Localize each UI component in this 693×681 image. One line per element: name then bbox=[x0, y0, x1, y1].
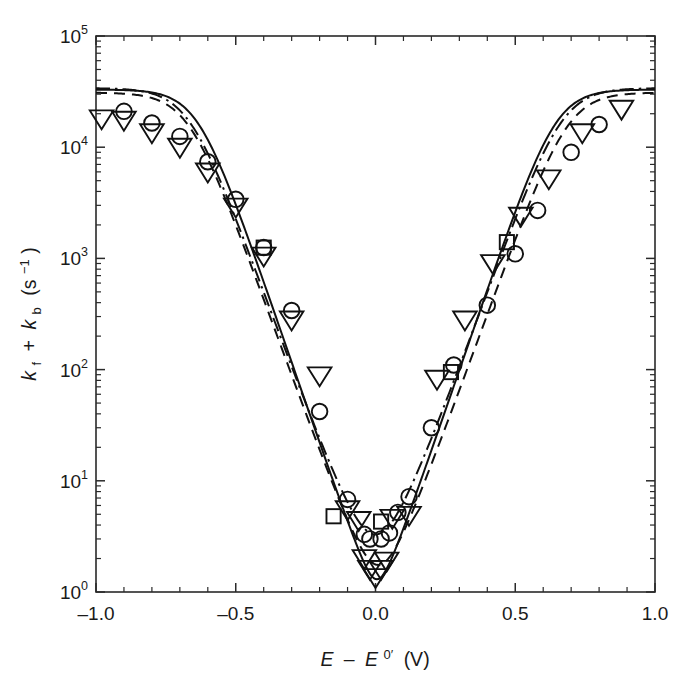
data-point-circle bbox=[284, 303, 300, 319]
data-point-triangle-down bbox=[537, 170, 561, 189]
ytitle-plus: + bbox=[18, 340, 40, 351]
fit-curves bbox=[96, 88, 655, 579]
xtitle-sup: 0′ bbox=[384, 647, 394, 662]
y-tick-label: 102 bbox=[60, 357, 88, 381]
svg-text:k f +: k f + k b (s −1 ) bbox=[11, 247, 45, 380]
ytitle-unit-close: ) bbox=[18, 247, 40, 254]
x-tick-label: –0.5 bbox=[217, 603, 254, 624]
dashed-fit bbox=[96, 93, 655, 565]
svg-text:E – E: E – E 0′ (V) bbox=[320, 641, 429, 670]
y-tick-label: 100 bbox=[60, 579, 88, 603]
data-point-circle bbox=[424, 420, 440, 436]
x-tick-label: 1.0 bbox=[642, 603, 668, 624]
data-point-circle bbox=[200, 154, 216, 170]
data-point-circle bbox=[144, 115, 160, 131]
data-point-triangle-down bbox=[610, 101, 634, 120]
y-axis-title: k f + k b (s −1 ) bbox=[11, 247, 45, 380]
data-point-circle bbox=[340, 492, 356, 508]
ytitle-kb-sub: b bbox=[29, 307, 44, 314]
x-tick-label: 0.0 bbox=[362, 603, 388, 624]
y-tick-label: 104 bbox=[60, 134, 88, 158]
x-tick-labels: –1.0–0.50.00.51.0 bbox=[78, 603, 669, 624]
plot-frame bbox=[96, 36, 655, 592]
data-markers bbox=[90, 101, 633, 588]
data-point-square bbox=[326, 509, 340, 523]
ytitle-unit-sup: −1 bbox=[17, 259, 32, 274]
data-point-triangle-down bbox=[425, 371, 449, 390]
data-point-circle bbox=[312, 404, 328, 420]
xtitle-minus: – bbox=[344, 648, 355, 670]
data-point-triangle-down bbox=[168, 139, 192, 158]
data-point-triangle-down bbox=[308, 367, 332, 386]
y-tick-label: 103 bbox=[60, 245, 88, 269]
data-point-circle bbox=[172, 129, 188, 145]
data-point-circle bbox=[530, 203, 546, 219]
x-tick-label: –1.0 bbox=[78, 603, 115, 624]
y-tick-label: 101 bbox=[60, 468, 88, 492]
xtitle-e1: E bbox=[320, 648, 334, 670]
solid-fit bbox=[96, 90, 655, 580]
circle-data bbox=[116, 104, 607, 547]
figure-panel: –1.0–0.50.00.51.0 100101102103104105 E –… bbox=[0, 0, 693, 681]
axis-ticks bbox=[96, 36, 655, 592]
ytitle-unit-open: (s bbox=[18, 279, 40, 295]
data-point-triangle-down bbox=[90, 110, 114, 129]
x-tick-label: 0.5 bbox=[502, 603, 528, 624]
y-tick-labels: 100101102103104105 bbox=[60, 23, 88, 603]
data-point-triangle-down bbox=[112, 112, 136, 131]
ytitle-kf-sub: f bbox=[29, 361, 44, 365]
data-point-triangle-down bbox=[280, 312, 304, 331]
chart-svg: –1.0–0.50.00.51.0 100101102103104105 E –… bbox=[0, 0, 693, 681]
ytitle-kb: k bbox=[18, 319, 40, 330]
data-point-circle bbox=[563, 144, 579, 160]
ytitle-kf: k bbox=[18, 370, 40, 381]
x-axis-title: E – E 0′ (V) bbox=[320, 641, 429, 670]
xtitle-unit: (V) bbox=[404, 648, 430, 670]
data-point-triangle-down bbox=[571, 124, 595, 143]
y-tick-label: 105 bbox=[60, 23, 88, 47]
xtitle-e2: E bbox=[365, 648, 379, 670]
dashdot-fit bbox=[96, 88, 655, 534]
data-point-triangle-down bbox=[140, 124, 164, 143]
triangle-data bbox=[90, 101, 633, 588]
